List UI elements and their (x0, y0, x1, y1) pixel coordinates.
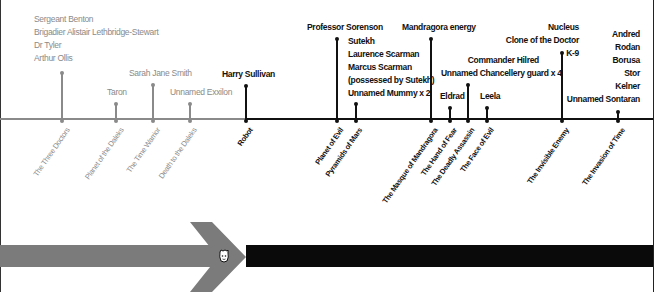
stem (336, 38, 338, 122)
stem (430, 38, 432, 122)
character-list: Leela (480, 90, 500, 103)
character-label: Arthur Ollis (34, 52, 159, 65)
stem (561, 52, 563, 122)
character-label: Laurence Scarman (348, 48, 434, 61)
episode-title: Planet of the Daleks (83, 126, 125, 181)
character-label: Unnamed Mummy x 2 (348, 87, 434, 100)
episode-title: The Time Warrior (125, 126, 163, 174)
character-list: Eldrad (440, 90, 465, 103)
character-label: Rodan (567, 41, 640, 54)
stem (355, 103, 357, 122)
character-label: Unnamed Sontaran (567, 93, 640, 106)
character-label: Leela (480, 90, 500, 103)
character-list: Taron (107, 86, 127, 99)
character-label: Andred (567, 28, 640, 41)
character-label: Brigadier Alistair Lethbridge-Stewart (34, 26, 159, 39)
character-label: Taron (107, 86, 127, 99)
episode-title: The Invisible Enemy (525, 126, 570, 186)
character-list: Mandragora energy (402, 21, 476, 34)
character-label: Harry Sullivan (222, 68, 275, 81)
timeline-axis-past (0, 118, 246, 120)
character-label: Sutekh (348, 35, 434, 48)
character-list: Sergeant Benton Brigadier Alistair Lethb… (34, 13, 159, 65)
stem (617, 111, 619, 122)
character-label: Unnamed Exxilon (170, 86, 232, 99)
stem (449, 107, 451, 122)
stem (467, 84, 469, 122)
character-list: Professor Sorenson (307, 21, 383, 34)
character-list: Sutekh Laurence Scarman Marcus Scarman (… (348, 35, 434, 100)
character-label: Borusa (567, 54, 640, 67)
character-label: Marcus Scarman (348, 61, 434, 74)
character-label: Stor (567, 67, 640, 80)
character-list: Unnamed Chancellery guard x 4 (441, 67, 562, 80)
episode-title: Robot (235, 126, 254, 148)
progress-bar-current (246, 245, 653, 267)
character-label: Professor Sorenson (307, 21, 383, 34)
stem (61, 72, 63, 122)
character-label: Eldrad (440, 90, 465, 103)
character-label: Mandragora energy (402, 21, 476, 34)
character-label: Sergeant Benton (34, 13, 159, 26)
stem (189, 103, 191, 122)
character-list: Unnamed Exxilon (170, 86, 232, 99)
character-list: Harry Sullivan (222, 68, 275, 81)
character-label: Unnamed Chancellery guard x 4 (441, 67, 562, 80)
progress-bar-past (0, 245, 200, 267)
doctor-face-icon (218, 249, 230, 263)
right-border (653, 0, 654, 292)
stem (152, 84, 154, 122)
episode-title: The Invasion of Time (580, 126, 627, 187)
stem (486, 107, 488, 122)
stem (245, 85, 247, 122)
character-label: Dr Tyler (34, 39, 159, 52)
stem (115, 103, 117, 122)
episode-title: Death to the Daleks (156, 126, 198, 180)
character-label: Kelner (567, 80, 640, 93)
character-list: Andred Rodan Borusa Stor Kelner Unnamed … (567, 28, 640, 106)
character-label: Sarah Jane Smith (129, 67, 192, 80)
character-list: Sarah Jane Smith (129, 67, 192, 80)
character-label: (possessed by Sutekh) (348, 74, 434, 87)
episode-title: The Three Doctors (31, 126, 71, 178)
